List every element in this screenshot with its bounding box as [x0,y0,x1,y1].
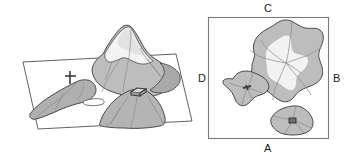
map-edge-label-b: B [333,73,341,84]
3d-perspective-panel [23,25,192,129]
2d-plan-panel [209,18,329,139]
map-edge-label-c: C [264,3,272,14]
map-edge-label-a: A [264,143,272,154]
rectangle-marker-plan [289,118,296,123]
map-edge-label-d: D [198,73,206,84]
landform-perspective-and-plan-figure [0,0,349,164]
